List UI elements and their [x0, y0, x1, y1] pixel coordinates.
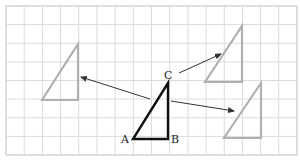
- image-triangle-top-right: [205, 26, 242, 82]
- vertex-label-c: C: [164, 69, 172, 82]
- grid-lines: [6, 6, 297, 155]
- triangle-abc: [133, 83, 168, 139]
- vertex-label-b: B: [171, 133, 179, 146]
- vertex-label-a: A: [120, 133, 130, 146]
- diagram-canvas: ABC: [0, 0, 300, 162]
- arrow-to-top-right: [179, 54, 221, 73]
- original-triangle: [133, 83, 168, 139]
- grid-diagram: ABC: [0, 0, 300, 162]
- image-triangle-left: [42, 44, 78, 100]
